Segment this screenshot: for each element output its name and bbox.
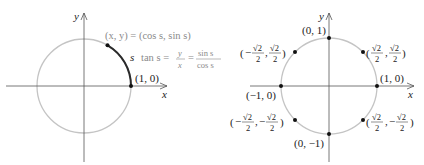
unit-circle-diagrams: y x (1, 0) s (x, y) = (cos s, sin s) tan… bbox=[0, 0, 424, 165]
label-q1: ( √2 2 , √2 2 ) bbox=[366, 43, 406, 64]
label-0-1: (0, 1) bbox=[302, 24, 326, 37]
tan-formula: tan s = y x = sin s cos s bbox=[141, 48, 221, 70]
point-xy-dot bbox=[106, 43, 110, 47]
arc-s bbox=[108, 45, 132, 86]
right-x-axis-label: x bbox=[407, 88, 413, 100]
dot-q1 bbox=[361, 50, 365, 54]
frac1-num: y bbox=[177, 48, 182, 58]
svg-text:2: 2 bbox=[256, 54, 260, 64]
right-y-axis-label: y bbox=[318, 10, 324, 22]
svg-text:−: − bbox=[245, 46, 251, 58]
svg-text:−: − bbox=[235, 115, 241, 127]
svg-text:,: , bbox=[265, 46, 268, 58]
frac1-den: x bbox=[177, 60, 182, 70]
tan-eq2: = bbox=[188, 52, 194, 63]
dot-0-neg1 bbox=[327, 132, 331, 136]
tan-lhs: tan s = bbox=[141, 52, 169, 63]
svg-text:−: − bbox=[389, 115, 395, 127]
frac2-den: cos s bbox=[197, 60, 214, 70]
svg-text:2: 2 bbox=[246, 123, 250, 133]
label-neg1-0: (−1, 0) bbox=[246, 89, 276, 102]
svg-text:(: ( bbox=[366, 116, 370, 129]
left-figure: y x (1, 0) s (x, y) = (cos s, sin s) tan… bbox=[6, 10, 221, 162]
svg-text:): ) bbox=[410, 116, 414, 129]
label-q3: ( − √2 2 , − √2 2 ) bbox=[230, 112, 284, 133]
svg-text:2: 2 bbox=[375, 54, 379, 64]
dot-1-0 bbox=[375, 84, 379, 88]
svg-text:2: 2 bbox=[375, 123, 379, 133]
label-0-neg1: (0, −1) bbox=[294, 137, 324, 150]
svg-text:): ) bbox=[282, 47, 286, 60]
label-q4: ( √2 2 , − √2 2 ) bbox=[366, 112, 414, 133]
svg-text:√2: √2 bbox=[243, 112, 252, 122]
dot-neg1-0 bbox=[279, 84, 283, 88]
svg-text:(: ( bbox=[240, 47, 244, 60]
dot-q3 bbox=[293, 118, 297, 122]
svg-text:√2: √2 bbox=[372, 112, 381, 122]
label-q2: ( − √2 2 , √2 2 ) bbox=[240, 43, 286, 64]
point-formula: (x, y) = (cos s, sin s) bbox=[105, 30, 191, 42]
dot-q2 bbox=[293, 50, 297, 54]
svg-text:√2: √2 bbox=[390, 43, 399, 53]
svg-text:,: , bbox=[255, 115, 258, 127]
svg-text:(: ( bbox=[230, 116, 234, 129]
svg-text:√2: √2 bbox=[397, 112, 406, 122]
label-1-0: (1, 0) bbox=[380, 72, 404, 85]
svg-text:−: − bbox=[259, 115, 265, 127]
svg-text:√2: √2 bbox=[267, 112, 276, 122]
dot-q4 bbox=[361, 118, 365, 122]
svg-text:2: 2 bbox=[270, 123, 274, 133]
svg-text:,: , bbox=[385, 115, 388, 127]
right-figure: y x (1, 0) (0, 1) (−1, 0) (0, −1) ( √2 2… bbox=[230, 10, 414, 162]
arc-s-label: s bbox=[130, 51, 134, 63]
svg-text:): ) bbox=[280, 116, 284, 129]
svg-text:√2: √2 bbox=[270, 43, 279, 53]
left-x-axis-label: x bbox=[161, 88, 167, 100]
left-y-axis-label: y bbox=[73, 10, 79, 22]
svg-text:√2: √2 bbox=[253, 43, 262, 53]
point-1-0-dot bbox=[129, 84, 133, 88]
svg-text:,: , bbox=[385, 46, 388, 58]
svg-text:√2: √2 bbox=[372, 43, 381, 53]
svg-text:(: ( bbox=[366, 47, 370, 60]
svg-text:2: 2 bbox=[273, 54, 277, 64]
frac2-num: sin s bbox=[198, 48, 213, 58]
dot-0-1 bbox=[327, 36, 331, 40]
svg-text:2: 2 bbox=[400, 123, 404, 133]
left-point-1-0-label: (1, 0) bbox=[135, 72, 159, 85]
svg-text:): ) bbox=[402, 47, 406, 60]
svg-text:2: 2 bbox=[393, 54, 397, 64]
